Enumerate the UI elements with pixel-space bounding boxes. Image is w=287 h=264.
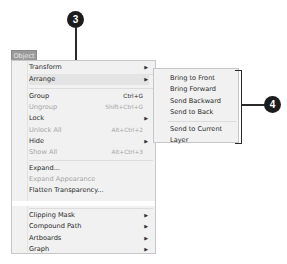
submenu-item-send-backward[interactable]: Send Backward	[170, 96, 234, 107]
menu-item-label: Expand Appearance	[29, 174, 95, 185]
callout-4-bracket	[235, 70, 242, 144]
menu-item-graph[interactable]: Graph ▶	[29, 244, 149, 255]
separator	[29, 208, 153, 209]
shortcut-label: Shift+Ctrl+G	[105, 102, 143, 113]
menu-item-label: Compound Path	[29, 221, 81, 232]
menu-item-label: Send to Back	[170, 107, 213, 118]
menu-item-label: Transform	[29, 62, 62, 73]
menu-item-transform[interactable]: Transform ▶	[29, 62, 149, 73]
menu-item-label: Send Backward	[170, 96, 221, 107]
menu-item-ungroup[interactable]: Ungroup Shift+Ctrl+G	[29, 102, 149, 113]
submenu-arrow-icon: ▶	[144, 233, 148, 244]
menu-item-label: Group	[29, 91, 49, 102]
menu-item-label: Hide	[29, 136, 44, 147]
submenu-arrow-icon: ▶	[144, 221, 148, 232]
menu-item-show-all[interactable]: Show All Alt+Ctrl+3	[29, 147, 149, 158]
menu-item-label: Clipping Mask	[29, 210, 75, 221]
menu-item-flatten-transparency[interactable]: Flatten Transparency...	[29, 185, 149, 196]
submenu-arrow-icon: ▶	[144, 244, 148, 255]
submenu-item-send-to-back[interactable]: Send to Back	[170, 107, 234, 118]
menu-item-label: Artboards	[29, 233, 61, 244]
menu-item-expand-appearance[interactable]: Expand Appearance	[29, 174, 149, 185]
shortcut-label: Ctrl+G	[123, 91, 143, 102]
submenu-arrow-icon: ▶	[144, 136, 148, 147]
menu-item-hide[interactable]: Hide ▶	[29, 136, 149, 147]
menu-item-label: Bring to Front	[170, 73, 215, 84]
submenu-item-bring-forward[interactable]: Bring Forward	[170, 84, 234, 95]
separator	[29, 160, 153, 161]
menu-item-label: Flatten Transparency...	[29, 185, 104, 196]
menu-item-compound-path[interactable]: Compound Path ▶	[29, 221, 149, 232]
menu-item-label: Bring Forward	[170, 84, 216, 95]
submenu-arrow-icon: ▶	[144, 74, 148, 85]
submenu-item-send-to-current-layer[interactable]: Send to Current Layer	[170, 124, 234, 135]
menu-item-label: Expand...	[29, 163, 60, 174]
menu-item-expand[interactable]: Expand...	[29, 163, 149, 174]
separator	[29, 88, 153, 89]
menu-gutter	[12, 61, 28, 253]
arrange-submenu: Bring to Front Bring Forward Send Backwa…	[153, 68, 239, 143]
menu-item-label: Send to Current Layer	[170, 124, 234, 146]
menu-item-label: Lock	[29, 113, 44, 124]
menu-item-artboards[interactable]: Artboards ▶	[29, 233, 149, 244]
menu-truncation-gap	[12, 201, 155, 206]
submenu-arrow-icon: ▶	[144, 62, 148, 73]
submenu-arrow-icon: ▶	[144, 113, 148, 124]
menu-item-label: Show All	[29, 147, 57, 158]
menu-item-unlock-all[interactable]: Unlock All Alt+Ctrl+2	[29, 125, 149, 136]
menu-item-label: Arrange	[29, 74, 55, 85]
submenu-item-bring-to-front[interactable]: Bring to Front	[170, 73, 234, 84]
submenu-arrow-icon: ▶	[144, 210, 148, 221]
shortcut-label: Alt+Ctrl+3	[111, 147, 143, 158]
menu-item-label: Ungroup	[29, 102, 57, 113]
menu-item-arrange[interactable]: Arrange ▶	[29, 74, 149, 85]
callout-4-leader-line	[242, 104, 266, 106]
object-menu: Transform ▶ Arrange ▶ Group Ctrl+G Ungro…	[11, 60, 156, 254]
menu-item-group[interactable]: Group Ctrl+G	[29, 91, 149, 102]
menu-item-label: Graph	[29, 244, 49, 255]
callout-4: 4	[264, 96, 281, 113]
menu-item-lock[interactable]: Lock ▶	[29, 113, 149, 124]
menu-item-clipping-mask[interactable]: Clipping Mask ▶	[29, 210, 149, 221]
menu-item-label: Unlock All	[29, 125, 62, 136]
shortcut-label: Alt+Ctrl+2	[111, 125, 143, 136]
separator	[168, 121, 236, 122]
callout-3: 3	[67, 11, 84, 28]
